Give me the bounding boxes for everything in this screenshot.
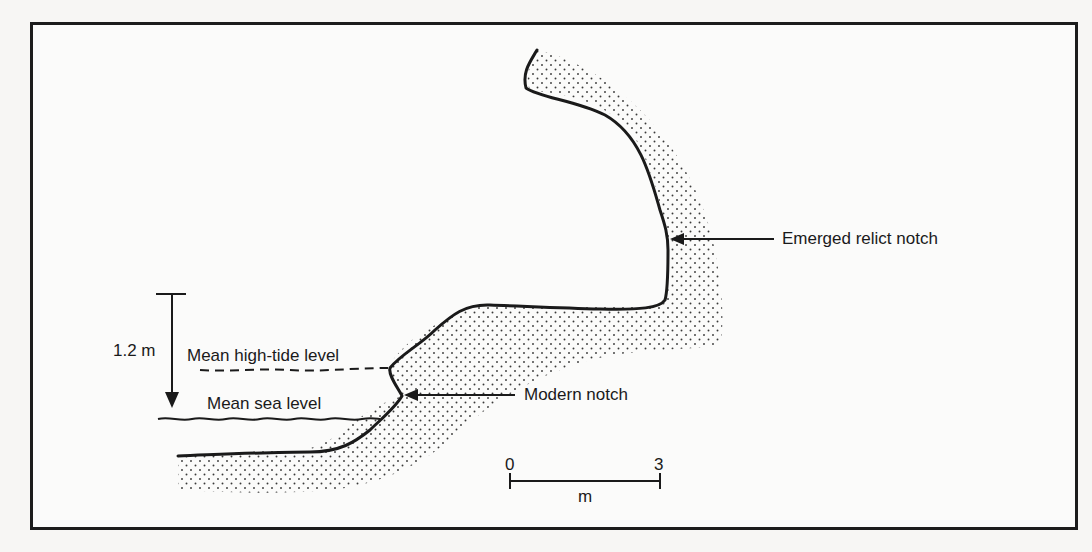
sea-level-line — [158, 418, 380, 420]
scale-start-label: 0 — [505, 455, 514, 475]
high-tide-line — [200, 368, 388, 371]
scale-unit-label: m — [578, 487, 592, 507]
rock-stipple-area — [178, 50, 722, 493]
coastal-notch-diagram — [0, 0, 1092, 552]
high-tide-label: Mean high-tide level — [187, 346, 339, 366]
scale-end-label: 3 — [654, 455, 663, 475]
emerged-notch-label: Emerged relict notch — [782, 229, 938, 249]
sea-level-label: Mean sea level — [207, 394, 321, 414]
tidal-range-arrow — [156, 294, 186, 408]
tidal-range-label: 1.2 m — [113, 341, 156, 361]
modern-notch-label: Modern notch — [524, 385, 628, 405]
